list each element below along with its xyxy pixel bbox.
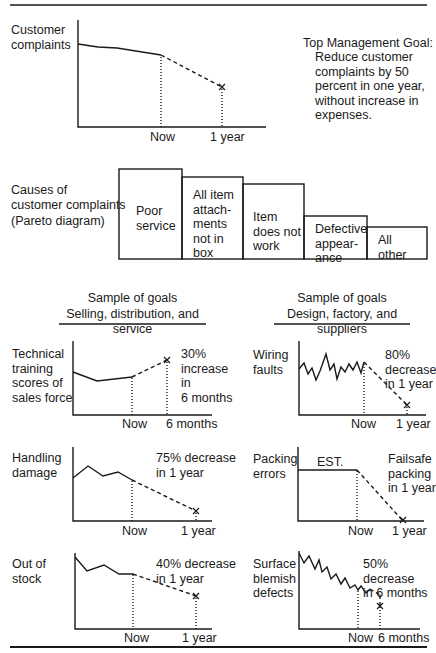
- pareto-label: Causes of customer complaints: [11, 183, 126, 212]
- now-label: Now: [351, 417, 376, 432]
- goal-title: Top Management Goal:: [303, 36, 433, 51]
- pareto-sublabel: (Pareto diagram): [11, 214, 105, 229]
- chart-goal: Failsafe packing in 1 year: [388, 452, 436, 496]
- pareto-bar-label: All item attach- ments not in box: [193, 188, 234, 261]
- complaints-axis-label: Customer complaints: [11, 23, 71, 52]
- chart-goal: 50% decrease in 6 months: [363, 557, 436, 601]
- pareto-bar-label: Item does not work: [253, 210, 301, 254]
- chart-label: Handling damage: [12, 451, 61, 480]
- left-section-title: Sample of goals: [59, 291, 206, 306]
- end-label: 1 year: [182, 631, 217, 646]
- end-label: 1 year: [181, 524, 216, 539]
- chart-label: Out of stock: [12, 557, 46, 586]
- now-label: Now: [124, 631, 149, 646]
- now-label: Now: [122, 524, 147, 539]
- right-section-subtitle: Design, factory, and suppliers: [270, 307, 414, 336]
- end-label: 6 months: [378, 631, 429, 646]
- est-label: EST.: [317, 455, 343, 470]
- left-section-subtitle: Selling, distribution, and service: [50, 307, 215, 336]
- chart-label: Wiring faults: [253, 348, 288, 377]
- now-label: Now: [348, 524, 373, 539]
- end-label: 1 year: [396, 417, 431, 432]
- now-label: Now: [150, 130, 175, 145]
- pareto-bar-label: All other: [378, 233, 407, 262]
- chart-goal: 40% decrease in 1 year: [156, 557, 236, 586]
- chart-label: Packing errors: [253, 452, 297, 481]
- right-section-title: Sample of goals: [274, 291, 410, 306]
- now-label: Now: [348, 631, 373, 646]
- chart-goal: 30% increase in 6 months: [181, 347, 232, 405]
- chart-goal: 75% decrease in 1 year: [156, 451, 236, 480]
- one-year-label: 1 year: [210, 130, 245, 145]
- end-label: 6 months: [166, 417, 217, 432]
- chart-goal: 80% decrease in 1 year: [385, 348, 436, 392]
- now-label: Now: [122, 417, 147, 432]
- pareto-bar-label: Defective appear- ance: [315, 222, 367, 266]
- end-label: 1 year: [392, 524, 427, 539]
- goal-text: Reduce customer complaints by 50 percent…: [315, 50, 425, 123]
- top-complaints-chart: [78, 20, 266, 127]
- chart-label: Technical training scores of sales force: [12, 347, 72, 405]
- pareto-bar-label: Poor service: [136, 204, 176, 233]
- chart-label: Surface blemish defects: [253, 557, 296, 601]
